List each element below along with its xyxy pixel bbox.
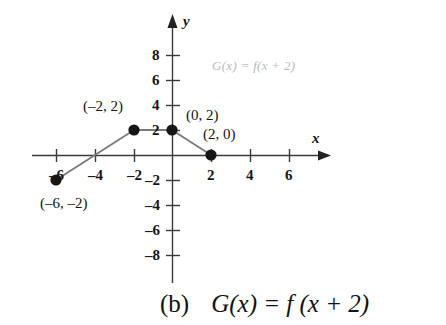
y-tick-label--2: –2	[145, 173, 160, 188]
y-axis-label: y	[183, 14, 190, 29]
caption-tag: (b)	[160, 290, 189, 318]
figure-panel: y x –6 –4 –2 2 4 6 8 6 4 2 –2 –4 –6 –8 (…	[0, 0, 446, 325]
y-tick-label-2: 2	[152, 123, 160, 138]
y-tick-label-4: 4	[152, 98, 160, 113]
point-label-neg2-2: (–2, 2)	[83, 99, 123, 114]
data-point-neg2-2	[128, 124, 139, 135]
figure-caption: (b) G(x) = f (x + 2)	[160, 286, 446, 322]
y-axis	[168, 14, 178, 283]
coordinate-plot	[0, 0, 446, 325]
x-tick-label--4: –4	[88, 168, 103, 183]
y-tick-label-8: 8	[152, 48, 160, 63]
x-tick-label-2: 2	[207, 168, 215, 183]
y-tick-label--4: –4	[145, 198, 160, 213]
x-tick-label-4: 4	[246, 168, 254, 183]
y-tick-label--6: –6	[145, 223, 160, 238]
in-plot-function-label: G(x) = f(x + 2)	[212, 59, 295, 72]
data-point-0-2	[166, 124, 177, 135]
y-tick-label-6: 6	[152, 73, 160, 88]
x-axis-label: x	[312, 131, 320, 146]
point-label-2-0: (2, 0)	[203, 127, 236, 142]
y-tick-label--8: –8	[145, 248, 160, 263]
x-tick-label-6: 6	[285, 168, 293, 183]
x-axis	[32, 151, 331, 161]
caption-equation: G(x) = f (x + 2)	[211, 290, 369, 318]
point-label-neg6-neg2: (–6, –2)	[40, 196, 88, 211]
point-label-0-2: (0, 2)	[186, 108, 219, 123]
data-point-2-0	[205, 149, 216, 160]
x-tick-label--6: –6	[49, 168, 64, 183]
x-tick-label--2: –2	[127, 168, 142, 183]
